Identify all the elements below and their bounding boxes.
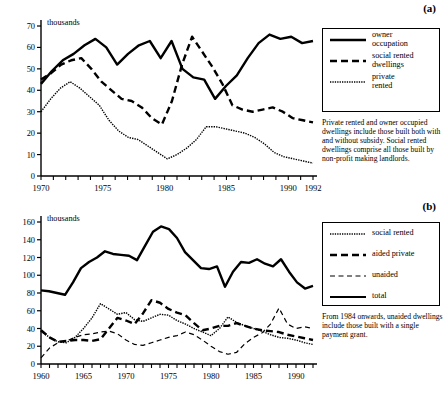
legend-item-unaided: unaided [323, 265, 439, 286]
svg-text:160: 160 [22, 218, 35, 227]
dashed-line-swatch [328, 250, 368, 260]
legend-item-aided-private: aided private [323, 244, 439, 265]
svg-text:1965: 1965 [75, 371, 92, 381]
svg-text:thousands: thousands [47, 214, 80, 223]
svg-text:100: 100 [22, 271, 35, 280]
legend-item-owner-occupation: owner occupation [323, 29, 439, 50]
chart-panel-a: (a) 010203040506070thousands197019751980… [0, 0, 448, 200]
panel-a-legend: owner occupation social rented dwellings… [322, 28, 440, 112]
legend-label-private-rented: private rented [368, 73, 395, 90]
dotted-line-swatch [328, 77, 368, 87]
svg-text:60: 60 [27, 43, 35, 52]
svg-text:1992: 1992 [304, 183, 321, 193]
svg-text:0: 0 [31, 172, 35, 181]
svg-text:1970: 1970 [117, 371, 134, 381]
legend-label-social-rented-dwellings: social rented dwellings [368, 52, 414, 69]
legend-item-total: total [323, 286, 439, 307]
solid-line-swatch [328, 35, 368, 45]
chart-panel-b: (b) 020406080100120140160thousands196019… [0, 198, 448, 401]
svg-text:0: 0 [31, 360, 35, 369]
svg-text:1975: 1975 [94, 183, 111, 193]
svg-text:40: 40 [27, 325, 35, 334]
svg-text:1980: 1980 [156, 183, 173, 193]
legend-item-private-rented: private rented [323, 71, 439, 92]
svg-text:1985: 1985 [218, 183, 235, 193]
svg-text:1970: 1970 [32, 183, 49, 193]
legend-item-social-rented-dwellings: social rented dwellings [323, 50, 439, 71]
svg-text:50: 50 [27, 65, 35, 74]
svg-text:1990: 1990 [287, 371, 304, 381]
svg-text:140: 140 [22, 236, 35, 245]
legend-label-total: total [368, 292, 387, 301]
dashed-line-swatch [328, 56, 368, 66]
legend-label-unaided: unaided [368, 271, 398, 280]
svg-text:70: 70 [27, 22, 35, 31]
legend-label-social-rented: social rented [368, 229, 414, 238]
dotted-line-swatch [328, 229, 368, 239]
svg-text:30: 30 [27, 108, 35, 117]
svg-text:1975: 1975 [160, 371, 177, 381]
legend-label-owner-occupation: owner occupation [368, 31, 408, 48]
svg-text:80: 80 [27, 289, 35, 298]
legend-label-aided-private: aided private [368, 250, 415, 259]
svg-text:20: 20 [27, 129, 35, 138]
svg-text:1985: 1985 [245, 371, 262, 381]
svg-text:1990: 1990 [280, 183, 297, 193]
panel-b-note: From 1984 onwards, unaided dwellings inc… [322, 312, 446, 339]
svg-text:10: 10 [27, 151, 35, 160]
svg-text:thousands: thousands [47, 18, 80, 27]
panel-b-legend: social rented aided private unaided tota… [322, 222, 440, 306]
solid-line-swatch [328, 292, 368, 302]
svg-text:1960: 1960 [32, 371, 49, 381]
legend-item-social-rented: social rented [323, 223, 439, 244]
svg-text:1980: 1980 [202, 371, 219, 381]
fine-dashed-line-swatch [328, 271, 368, 281]
panel-a-note: Private rented and owner occupied dwelli… [322, 118, 446, 163]
svg-text:20: 20 [27, 342, 35, 351]
svg-text:60: 60 [27, 307, 35, 316]
svg-text:120: 120 [22, 254, 35, 263]
svg-text:40: 40 [27, 86, 35, 95]
